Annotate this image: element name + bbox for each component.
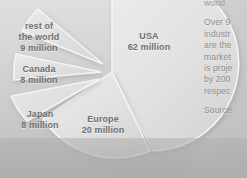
pie-chart-graphic (0, 0, 247, 178)
pie-chart-scene: USA 62 million Europe 20 million Japan 8… (0, 0, 247, 178)
pie-slice-rest-of-world (22, 9, 103, 64)
